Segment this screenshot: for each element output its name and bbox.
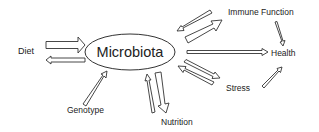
diet-label: Diet — [18, 46, 35, 56]
microbiota-diagram: Microbiota Diet Genotype Nutrition Immun… — [0, 0, 319, 132]
genotype-to-microbiota-arrow — [83, 71, 107, 106]
microbiota-to-nutrition-arrow — [155, 72, 169, 113]
stress-label: Stress — [226, 83, 250, 93]
genotype-label: Genotype — [67, 105, 104, 115]
immune-function-label: Immune Function — [228, 7, 294, 17]
nutrition-label: Nutrition — [161, 117, 193, 127]
immune-to-health-arrow — [275, 22, 285, 47]
microbiota-label: Microbiota — [97, 44, 165, 60]
microbiota-to-diet-arrow — [46, 56, 85, 64]
microbiota-to-health-arrow — [187, 49, 268, 56]
stress-to-health-arrow — [262, 67, 282, 88]
health-label: Health — [271, 48, 296, 58]
diet-to-microbiota-arrow — [46, 37, 85, 53]
nutrition-to-microbiota-arrow — [145, 74, 155, 113]
stress-to-microbiota-arrow — [178, 66, 214, 85]
microbiota-to-stress-arrow — [184, 60, 220, 79]
